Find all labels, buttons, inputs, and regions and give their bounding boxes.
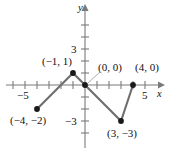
y-tick-label-3: 3 <box>71 44 77 55</box>
graph-figure: x y −5 5 3 −3 (−1, 1) (0, 0) (4, 0) (−4,… <box>0 0 171 150</box>
y-axis-label: y <box>78 3 83 14</box>
data-point-marker <box>70 70 76 76</box>
x-axis-label: x <box>157 89 162 100</box>
data-point-marker <box>82 82 88 88</box>
x-tick-label-minus5: −5 <box>17 90 29 101</box>
data-point-marker <box>118 118 124 124</box>
x-tick-label-5: 5 <box>142 90 148 101</box>
data-point-marker <box>34 106 40 112</box>
point-label-4-0: (4, 0) <box>135 62 159 73</box>
point-label-0-0: (0, 0) <box>98 62 122 73</box>
y-axis <box>81 4 89 148</box>
point-label-3-minus3: (3, −3) <box>107 128 137 139</box>
data-point-marker <box>130 82 136 88</box>
point-label-minus4-minus2: (−4, −2) <box>10 115 46 126</box>
origin-label-leader-line <box>88 72 100 83</box>
point-label-minus1-1: (−1, 1) <box>42 56 72 67</box>
y-tick-label-minus3: −3 <box>65 116 77 127</box>
coordinate-plane <box>0 0 171 150</box>
